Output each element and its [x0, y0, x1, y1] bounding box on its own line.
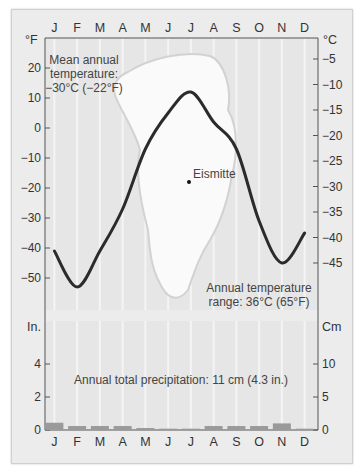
month-label: S [232, 21, 240, 35]
month-label: J [51, 435, 57, 449]
precip-bar [205, 426, 223, 430]
fahrenheit-unit-label: °F [25, 33, 38, 47]
month-label: J [51, 21, 57, 35]
month-label: A [118, 435, 127, 449]
eismitte-label: Eismitte [193, 167, 236, 181]
month-label: O [254, 435, 264, 449]
fahrenheit-tick-label: −10 [21, 151, 42, 165]
month-label: N [277, 435, 286, 449]
precip-bar [114, 426, 132, 430]
month-label: J [188, 435, 194, 449]
inch-tick-label: 4 [34, 357, 41, 371]
eismitte-marker [187, 180, 191, 184]
month-labels-top: JFMAMJJASOND [51, 21, 309, 35]
month-label: F [73, 435, 81, 449]
precip-bar [182, 429, 200, 430]
precip-annotation: Annual total precipitation: 11 cm (4.3 i… [74, 373, 288, 387]
inch-tick-label: 0 [34, 423, 41, 437]
celsius-tick-label: −25 [322, 154, 343, 168]
mean-temp-annotation-1: Mean annual [49, 53, 118, 67]
precip-bar [91, 426, 109, 430]
climograph: JFMAMJJASOND JFMAMJJASOND 20100−10−20−30… [0, 0, 360, 470]
inch-tick-label: 2 [34, 390, 41, 404]
month-labels-bottom: JFMAMJJASOND [51, 435, 309, 449]
month-label: A [118, 21, 127, 35]
precip-bar [227, 426, 245, 430]
temp-range-annotation-2: range: 36°C (65°F) [209, 295, 310, 309]
fahrenheit-tick-label: −50 [21, 271, 42, 285]
celsius-tick-label: −10 [322, 78, 343, 92]
fahrenheit-tick-label: 0 [34, 121, 41, 135]
month-label: N [277, 21, 286, 35]
fahrenheit-tick-label: −30 [21, 211, 42, 225]
precip-bar [68, 426, 86, 430]
celsius-tick-label: −30 [322, 180, 343, 194]
precip-bar [159, 429, 177, 430]
mean-temp-annotation-2: temperature: [50, 67, 118, 81]
celsius-ticks: −5−10−15−20−25−30−35−40−45 [313, 52, 343, 270]
precip-bar [296, 429, 314, 430]
fahrenheit-tick-label: −20 [21, 181, 42, 195]
month-label: J [165, 21, 171, 35]
month-label: D [300, 21, 309, 35]
cm-tick-label: 5 [322, 390, 329, 404]
month-label: M [95, 21, 105, 35]
temp-range-annotation-1: Annual temperature [206, 281, 312, 295]
celsius-tick-label: −5 [322, 52, 336, 66]
month-label: J [165, 435, 171, 449]
precip-bar [136, 428, 154, 430]
month-label: D [300, 435, 309, 449]
celsius-tick-label: −45 [322, 256, 343, 270]
inch-unit-label: In. [27, 320, 41, 334]
month-label: F [73, 21, 81, 35]
celsius-tick-label: −35 [322, 205, 343, 219]
month-label: S [232, 435, 240, 449]
month-label: M [140, 435, 150, 449]
month-label: M [140, 21, 150, 35]
cm-unit-label: Cm [322, 320, 341, 334]
month-label: M [95, 435, 105, 449]
precip-bar [45, 423, 63, 430]
mean-temp-annotation-3: −30°C (−22°F) [45, 81, 123, 95]
precip-bar [273, 423, 291, 430]
celsius-unit-label: °C [323, 33, 337, 47]
fahrenheit-tick-label: 10 [28, 91, 42, 105]
celsius-tick-label: −15 [322, 103, 343, 117]
cm-tick-label: 0 [322, 423, 329, 437]
fahrenheit-tick-label: 20 [28, 61, 42, 75]
precip-bar [250, 426, 268, 430]
month-label: J [188, 21, 194, 35]
fahrenheit-tick-label: −40 [21, 241, 42, 255]
month-label: O [254, 21, 264, 35]
month-label: A [209, 21, 218, 35]
month-label: A [209, 435, 218, 449]
cm-tick-label: 10 [322, 357, 336, 371]
celsius-tick-label: −40 [322, 231, 343, 245]
celsius-tick-label: −20 [322, 129, 343, 143]
